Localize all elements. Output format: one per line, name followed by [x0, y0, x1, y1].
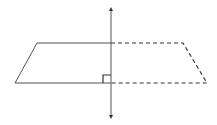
perpendicular-line-plane-diagram: [0, 0, 217, 125]
plane-solid-edge: [15, 43, 111, 83]
plane-dashed-edge: [111, 43, 207, 83]
diagram-canvas: [0, 0, 217, 125]
right-angle-marker: [103, 75, 111, 83]
